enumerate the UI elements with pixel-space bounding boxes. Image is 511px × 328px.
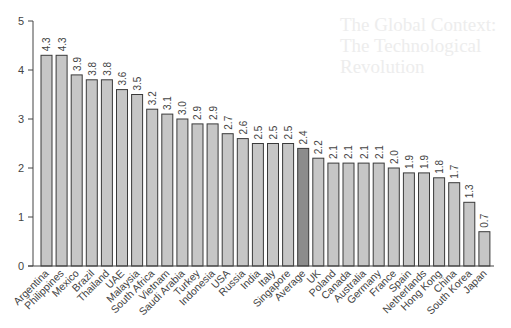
value-label: 1.3 [464,184,475,198]
value-label: 2.2 [313,140,324,154]
value-label: 3.8 [87,61,98,75]
x-axis: ArgentinaPhilippinesMexicoBrazilThailand… [11,266,494,318]
value-label: 2.1 [328,145,339,159]
bar-mexico [71,75,82,266]
value-label: 3.0 [177,101,188,115]
bar-poland [328,163,339,266]
bar-average [298,148,309,266]
bar-turkey [192,124,203,266]
value-label: 2.5 [253,125,264,139]
bar-thailand [101,80,112,266]
bar-malaysia [132,95,143,267]
bar-usa [222,134,233,266]
bar-philippines [56,55,67,266]
bar-singapore [283,144,294,267]
value-label: 1.9 [419,155,430,169]
y-tick-label: 3 [18,113,24,125]
bar-germany [373,163,384,266]
bar-china [449,183,460,266]
bar-australia [358,163,369,266]
value-label: 0.7 [479,213,490,227]
value-label: 1.7 [449,164,460,178]
value-label: 1.8 [434,159,445,173]
value-label: 2.1 [374,145,385,159]
value-label: 4.3 [42,37,53,51]
bars: 4.34.33.93.83.83.63.53.23.13.02.92.92.72… [41,37,490,266]
value-label: 2.1 [359,145,370,159]
value-label: 3.1 [162,96,173,110]
bar-france [388,168,399,266]
y-tick-label: 1 [18,211,24,223]
bar-brazil [86,80,97,266]
bar-vietnam [162,114,173,266]
y-tick-label: 0 [18,260,24,272]
y-tick-label: 5 [18,15,24,27]
value-label: 2.5 [283,125,294,139]
value-label: 1.9 [404,155,415,169]
value-label: 3.2 [147,91,158,105]
value-label: 2.5 [268,125,279,139]
bar-south-korea [464,202,475,266]
y-tick-label: 4 [18,64,24,76]
value-label: 4.3 [57,37,68,51]
bar-indonesia [207,124,218,266]
bar-spain [403,173,414,266]
bar-netherlands [419,173,430,266]
bar-canada [343,163,354,266]
bar-uae [117,90,128,266]
bar-uk [313,158,324,266]
value-label: 3.6 [117,71,128,85]
value-label: 3.5 [132,76,143,90]
y-axis: 012345 [18,15,33,272]
y-tick-label: 2 [18,162,24,174]
bar-italy [268,144,279,267]
value-label: 2.6 [238,120,249,134]
bar-india [252,144,263,267]
bar-japan [479,232,490,266]
value-label: 2.4 [298,130,309,144]
bar-chart: 012345 4.34.33.93.83.83.63.53.23.13.02.9… [0,0,511,328]
value-label: 3.9 [72,57,83,71]
value-label: 2.9 [208,106,219,120]
bar-saudi-arabia [177,119,188,266]
bar-hong-kong [434,178,445,266]
value-label: 3.8 [102,61,113,75]
value-label: 2.9 [193,106,204,120]
bar-russia [237,139,248,266]
value-label: 2.0 [389,150,400,164]
bar-argentina [41,55,52,266]
value-label: 2.7 [223,115,234,129]
bar-south-africa [147,109,158,266]
value-label: 2.1 [344,145,355,159]
